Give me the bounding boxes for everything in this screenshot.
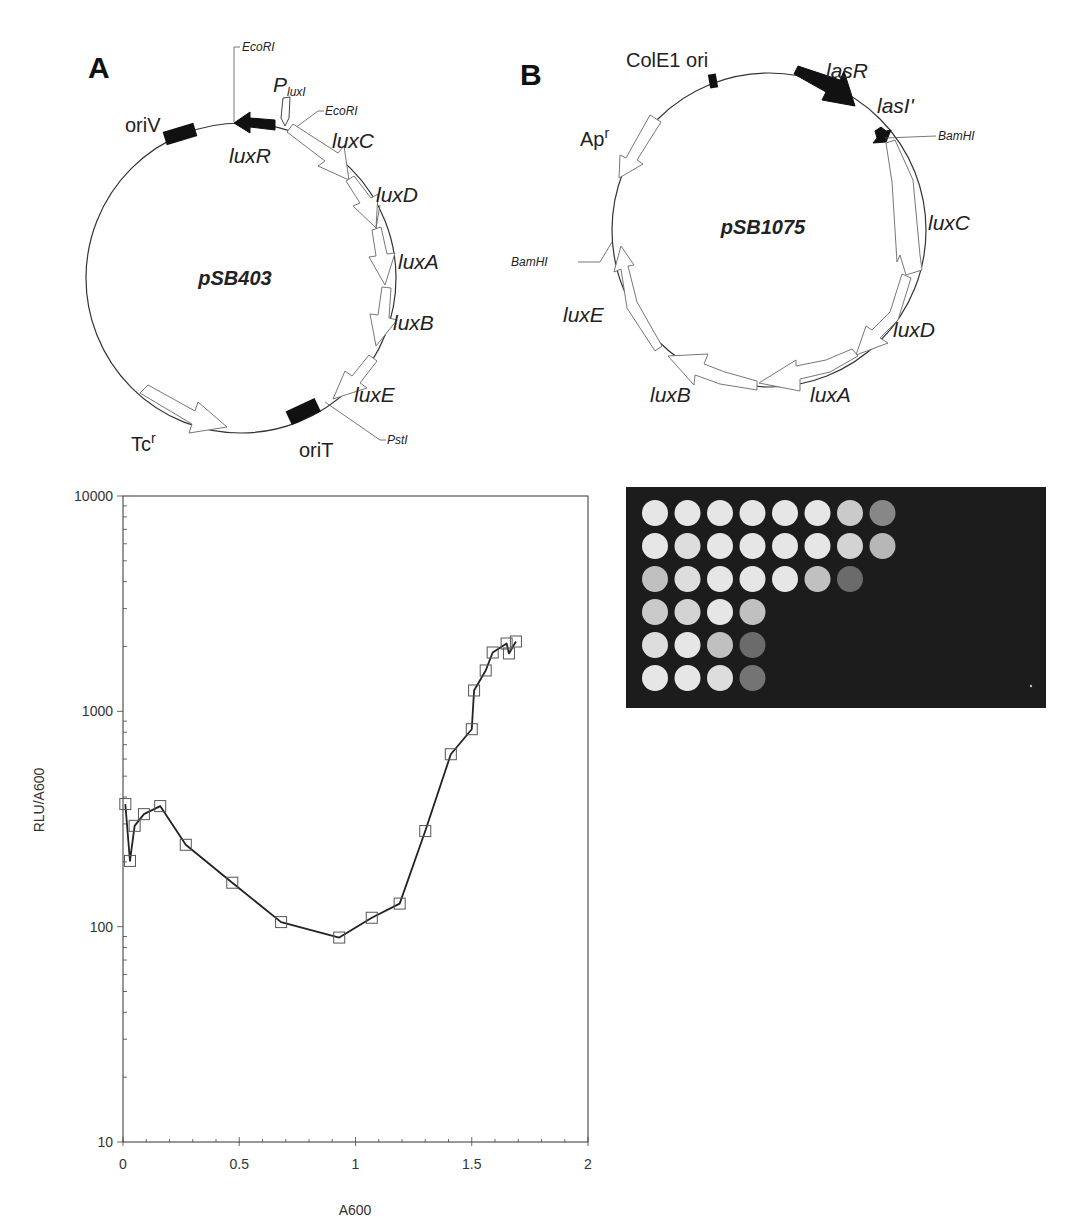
oriV-label: oriV [125, 114, 161, 136]
luxD-label-a: luxD [376, 183, 418, 206]
oriV-block [163, 123, 198, 146]
plate-well [642, 500, 668, 526]
tcR-label: Tcr [131, 430, 156, 455]
plate-well [707, 632, 733, 658]
luxC-label-a: luxC [332, 129, 375, 152]
luxC-arrow-b [886, 140, 922, 275]
plate-well [675, 566, 701, 592]
tick-labels: 1010010001000000.511.52 [74, 488, 592, 1172]
luxE-label-a: luxE [354, 383, 396, 406]
plate-well [707, 599, 733, 625]
cole1-ori-block [708, 73, 718, 88]
y-axis-label: RLU/A600 [31, 767, 47, 832]
luxA-arrow-a [369, 227, 395, 285]
pluxI-promoter-icon [281, 97, 290, 126]
lasI-arrow [873, 127, 891, 143]
psti-label: PstI [387, 433, 408, 447]
plate-well [870, 500, 896, 526]
y-minor-ticks [117, 496, 127, 1142]
psti-leader [325, 402, 386, 440]
x-tick-label: 1 [352, 1156, 360, 1172]
plate-well [837, 533, 863, 559]
x-tick-label: 2 [584, 1156, 592, 1172]
x-tick-label: 1.5 [462, 1156, 482, 1172]
plate-well [772, 566, 798, 592]
plate-well [740, 566, 766, 592]
apR-label: Apr [580, 125, 609, 150]
lux-operon-b [614, 140, 922, 391]
oriT-block [286, 398, 321, 425]
x-axis-label: A600 [339, 1202, 372, 1218]
plate-well [675, 533, 701, 559]
luxR-arrow [234, 112, 275, 133]
luxE-label-b: luxE [563, 303, 605, 326]
lasR-label: lasR [826, 59, 868, 82]
luxC-label-b: luxC [928, 211, 971, 234]
bamhi-1-leader [885, 136, 936, 138]
luxA-label-b: luxA [810, 383, 851, 406]
ecori-1-leader [234, 47, 240, 122]
ecori-1-label: EcoRI [242, 40, 275, 54]
plate-well [642, 566, 668, 592]
luminescence-plate-image [626, 487, 1046, 708]
plate-well [675, 599, 701, 625]
luxE-arrow-b [614, 246, 662, 351]
plate-well [740, 500, 766, 526]
y-tick-label: 10000 [74, 488, 113, 504]
plate-well [707, 665, 733, 691]
pluxI-label: PluxI [273, 73, 306, 99]
luxB-label-a: luxB [393, 311, 434, 334]
plate-well [772, 533, 798, 559]
bamhi-2-label: BamHI [511, 255, 548, 269]
plate-well [805, 500, 831, 526]
y-tick-label: 1000 [82, 703, 113, 719]
plate-well [707, 566, 733, 592]
y-tick-label: 10 [97, 1134, 113, 1150]
plate-well [642, 665, 668, 691]
plate-well [837, 566, 863, 592]
lasI-label: lasI' [877, 94, 915, 117]
chart: 1010010001000000.511.52 A600 RLU/A600 [31, 488, 592, 1218]
plate-well [740, 533, 766, 559]
plate-well [772, 500, 798, 526]
figure-canvas: A oriV luxR PluxI EcoRI EcoRI luxC [0, 0, 1084, 1232]
plate-well [870, 533, 896, 559]
luxB-label-b: luxB [650, 383, 691, 406]
plate-well [805, 533, 831, 559]
series-line [125, 642, 516, 938]
luxR-label: luxR [229, 144, 271, 167]
plate-well [740, 632, 766, 658]
plate-well [837, 500, 863, 526]
plasmid-b-name: pSB1075 [720, 216, 806, 238]
plot-frame [123, 496, 588, 1142]
plate-well [740, 665, 766, 691]
panel-b: B ColE1 ori lasR lasI' BamHI Apr luxC lu… [511, 49, 975, 406]
plate-well [707, 533, 733, 559]
plate-well [642, 632, 668, 658]
plate-well [740, 599, 766, 625]
plasmid-a-name: pSB403 [197, 267, 271, 289]
plate-well [675, 632, 701, 658]
bamhi-2-leader [578, 242, 612, 262]
plate-well [805, 566, 831, 592]
panel-a-letter: A [88, 51, 110, 84]
plate-well [675, 500, 701, 526]
bamhi-1-label: BamHI [938, 129, 975, 143]
cole1-ori-label: ColE1 ori [626, 49, 708, 71]
panel-a: A oriV luxR PluxI EcoRI EcoRI luxC [86, 40, 439, 461]
series-markers [120, 636, 522, 943]
luxD-label-b: luxD [893, 318, 935, 341]
apR-arrow [619, 115, 661, 178]
plate-well [642, 533, 668, 559]
plate-speck [1030, 685, 1032, 687]
ecori-2-label: EcoRI [325, 104, 358, 118]
luxA-label-a: luxA [398, 250, 439, 273]
oriT-label: oriT [299, 439, 333, 461]
plate-well [675, 665, 701, 691]
plate-well [707, 500, 733, 526]
luxD-arrow-a [346, 176, 378, 228]
tcR-arrow [140, 385, 227, 433]
y-tick-label: 100 [90, 919, 114, 935]
x-tick-label: 0 [119, 1156, 127, 1172]
luxD-arrow-b [856, 274, 911, 355]
